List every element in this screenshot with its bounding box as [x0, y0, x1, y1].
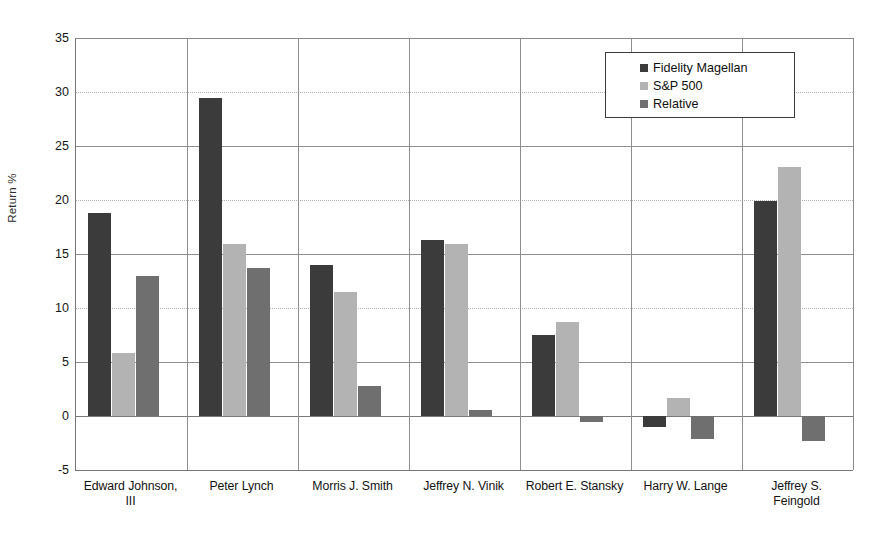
x-axis-category-label-line: Harry W. Lange [630, 479, 741, 494]
bar [556, 322, 579, 416]
bar [199, 98, 222, 416]
bar [754, 201, 777, 416]
legend-item-label: S&P 500 [653, 79, 702, 93]
bar [778, 167, 801, 416]
x-axis-category-label-line: Edward Johnson, [75, 479, 186, 494]
bar [112, 353, 135, 416]
legend-item-label: Fidelity Magellan [653, 61, 748, 75]
x-axis-category-label: Morris J. Smith [297, 479, 408, 494]
bar [691, 416, 714, 439]
bar-chart: Return % -505101520253035 Edward Johnson… [0, 0, 885, 541]
x-axis-category-label: Peter Lynch [186, 479, 297, 494]
y-axis-tick-label: 5 [13, 355, 75, 369]
gridline-horizontal [76, 146, 853, 147]
bar [88, 213, 111, 416]
y-axis-tick-label: 30 [13, 85, 75, 99]
legend-swatch-icon [640, 82, 648, 90]
bar [532, 335, 555, 416]
bar [667, 398, 690, 416]
legend-item-label: Relative [653, 97, 699, 111]
bar [310, 265, 333, 416]
gridline-horizontal [76, 200, 853, 201]
x-axis-category-label-line: Robert E. Stansky [519, 479, 630, 494]
gridline-vertical [520, 38, 521, 470]
x-axis-category-label: Robert E. Stansky [519, 479, 630, 494]
bar [445, 244, 468, 416]
chart-legend: Fidelity Magellan S&P 500 Relative [605, 52, 795, 118]
gridline-vertical [298, 38, 299, 470]
y-axis-tick-label: 0 [13, 409, 75, 423]
x-axis-category-label: Jeffrey S.Feingold [741, 479, 852, 509]
gridline-vertical [187, 38, 188, 470]
bar [802, 416, 825, 441]
bar [223, 244, 246, 416]
y-axis-tick-label: 20 [13, 193, 75, 207]
y-axis-tick-label: 35 [13, 31, 75, 45]
x-axis-category-label-line: Morris J. Smith [297, 479, 408, 494]
x-axis-category-label-line: Jeffrey S. [741, 479, 852, 494]
gridline-horizontal [76, 416, 853, 417]
x-axis-category-label: Harry W. Lange [630, 479, 741, 494]
gridline-vertical [853, 38, 854, 470]
x-axis-category-label-line: Peter Lynch [186, 479, 297, 494]
bar [136, 276, 159, 416]
x-axis-category-label: Edward Johnson,III [75, 479, 186, 509]
bar [358, 386, 381, 416]
y-axis-tick-label: 25 [13, 139, 75, 153]
y-axis-tick-label: -5 [13, 463, 75, 477]
x-axis-category-label-line: Feingold [741, 494, 852, 509]
legend-swatch-icon [640, 100, 648, 108]
legend-item: S&P 500 [606, 77, 794, 95]
x-axis-category-label-line: III [75, 494, 186, 509]
bar [643, 416, 666, 427]
gridline-horizontal [76, 38, 853, 39]
legend-swatch-icon [640, 64, 648, 72]
y-axis-tick-label: 15 [13, 247, 75, 261]
bar [580, 416, 603, 422]
y-axis-tick-labels: -505101520253035 [0, 0, 75, 541]
bar [334, 292, 357, 416]
x-axis-category-label-line: Jeffrey N. Vinik [408, 479, 519, 494]
y-axis-tick-label: 10 [13, 301, 75, 315]
bar [421, 240, 444, 416]
x-axis-category-label: Jeffrey N. Vinik [408, 479, 519, 494]
bar [247, 268, 270, 416]
legend-item: Fidelity Magellan [606, 59, 794, 77]
gridline-vertical [409, 38, 410, 470]
bar [469, 410, 492, 416]
legend-item: Relative [606, 95, 794, 113]
